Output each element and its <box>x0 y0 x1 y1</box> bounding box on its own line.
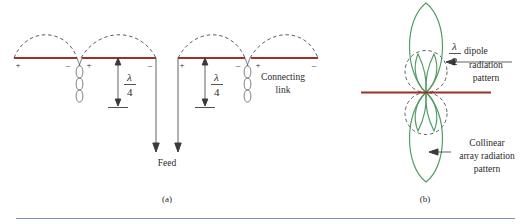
connecting-link-label: Connecting link <box>261 72 305 95</box>
lambda-numerator: λ <box>213 71 219 83</box>
panel-a-caption: (a) <box>162 194 172 204</box>
antenna-array-figure: + – + – + – + – λ 4 <box>0 0 524 224</box>
side-lobe-upper-right <box>426 54 437 93</box>
two-denominator: 2 <box>452 55 458 67</box>
polarity-mark: + <box>15 60 20 70</box>
leader-arrowhead <box>429 149 438 155</box>
dimension-lambda-over-4-right <box>195 58 215 108</box>
arrowhead-down <box>202 99 208 106</box>
four-denominator: 4 <box>214 86 220 98</box>
polarity-mark: + <box>255 60 260 70</box>
panel-a-group: + – + – + – + – λ 4 <box>14 35 318 204</box>
feed-arrowhead-left <box>153 143 159 152</box>
feed-lines <box>153 58 181 152</box>
arrowhead-down <box>115 99 121 106</box>
polarity-mark: + <box>179 60 184 70</box>
polarity-mark: – <box>65 60 71 70</box>
polarity-marks: + – + – + – + – <box>15 60 316 70</box>
side-lobe-lower-right <box>426 93 437 132</box>
figure-canvas: + – + – + – + – λ 4 <box>0 0 524 224</box>
panel-b-group: λ 2 dipole radiation pattern Collinear a… <box>361 3 515 204</box>
lambda-numerator: λ <box>126 71 132 83</box>
radiation-word: radiation <box>469 60 503 70</box>
dipole-word: dipole <box>464 46 488 56</box>
arc-1 <box>14 35 77 58</box>
arc-3 <box>178 35 245 58</box>
collinear-array-pattern-label: Collinear array radiation pattern <box>459 138 515 174</box>
side-lobe-lower-left <box>415 93 426 132</box>
collinear-line-2: array radiation <box>459 151 515 161</box>
leader-collinear-array <box>429 149 451 155</box>
current-distribution-arcs <box>14 35 318 58</box>
dimension-label-lambda-over-4-right: λ 4 <box>211 71 223 98</box>
polarity-mark: – <box>311 60 317 70</box>
connecting-link-line-2: link <box>276 85 291 95</box>
feed-label: Feed <box>158 158 177 168</box>
arc-2 <box>81 35 156 58</box>
pattern-word: pattern <box>473 73 500 83</box>
collinear-line-3: pattern <box>474 164 501 174</box>
polarity-mark: + <box>86 60 91 70</box>
polarity-mark: – <box>235 60 241 70</box>
panel-b-caption: (b) <box>420 194 431 204</box>
feed-arrowhead-right <box>175 143 181 152</box>
four-denominator: 4 <box>127 86 133 98</box>
lambda-numerator: λ <box>451 40 457 52</box>
arc-4 <box>250 35 318 58</box>
collinear-line-1: Collinear <box>469 138 505 148</box>
half-wave-dipole-pattern-label: λ 2 dipole radiation pattern <box>449 40 503 83</box>
side-lobe-upper-left <box>415 54 426 93</box>
dimension-label-lambda-over-4-left: λ 4 <box>124 71 136 98</box>
polarity-mark: – <box>147 60 153 70</box>
phase-reversal-stub-left <box>76 58 83 102</box>
phase-reversal-stub-right <box>244 58 251 102</box>
dimension-lambda-over-4-left <box>108 58 128 108</box>
connecting-link-line-1: Connecting <box>261 72 305 82</box>
